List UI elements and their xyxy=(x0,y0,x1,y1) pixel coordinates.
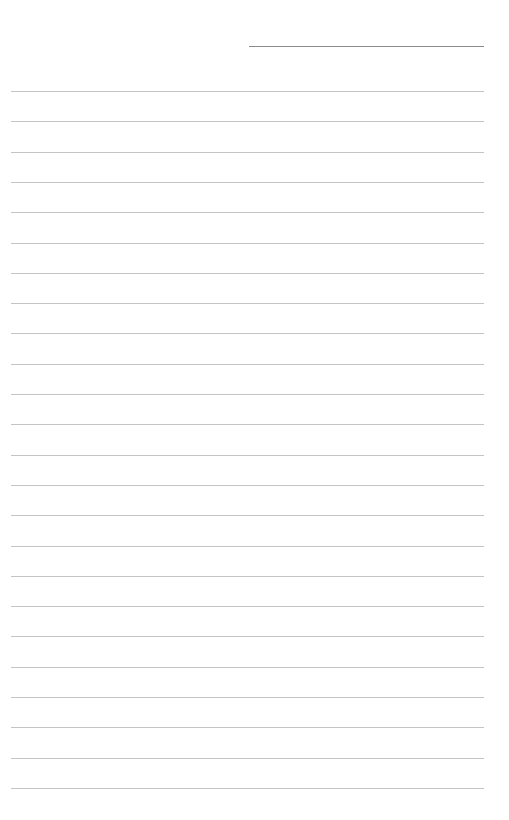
ruled-line xyxy=(11,758,484,759)
date-header-line xyxy=(249,46,484,47)
ruled-line xyxy=(11,121,484,122)
ruled-line xyxy=(11,515,484,516)
ruled-line xyxy=(11,455,484,456)
ruled-line xyxy=(11,697,484,698)
ruled-line xyxy=(11,727,484,728)
ruled-line xyxy=(11,606,484,607)
ruled-line xyxy=(11,91,484,92)
ruled-line xyxy=(11,788,484,789)
ruled-line xyxy=(11,243,484,244)
ruled-line xyxy=(11,636,484,637)
ruled-line xyxy=(11,152,484,153)
ruled-line xyxy=(11,182,484,183)
ruled-line xyxy=(11,394,484,395)
ruled-line xyxy=(11,303,484,304)
ruled-line xyxy=(11,667,484,668)
ruled-line xyxy=(11,546,484,547)
ruled-line xyxy=(11,212,484,213)
ruled-line xyxy=(11,485,484,486)
ruled-line xyxy=(11,273,484,274)
ruled-line xyxy=(11,333,484,334)
ruled-line xyxy=(11,576,484,577)
ruled-line xyxy=(11,364,484,365)
ruled-line xyxy=(11,424,484,425)
